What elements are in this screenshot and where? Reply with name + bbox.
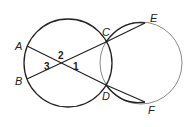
label-d: D [102, 90, 110, 102]
label-f: F [148, 104, 156, 116]
angle-label-1: 1 [73, 61, 79, 72]
angle-label-3: 3 [44, 61, 50, 72]
segment-df [106, 85, 145, 102]
label-a: A [14, 40, 22, 52]
segment-ad [27, 46, 106, 85]
label-c: C [102, 26, 110, 38]
angle-label-2: 2 [58, 50, 64, 61]
label-b: B [15, 75, 22, 87]
segment-bc [27, 42, 106, 79]
left-circle [24, 19, 112, 107]
label-e: E [150, 12, 158, 24]
geometry-diagram: A B C D E F 1 2 3 [0, 0, 192, 127]
